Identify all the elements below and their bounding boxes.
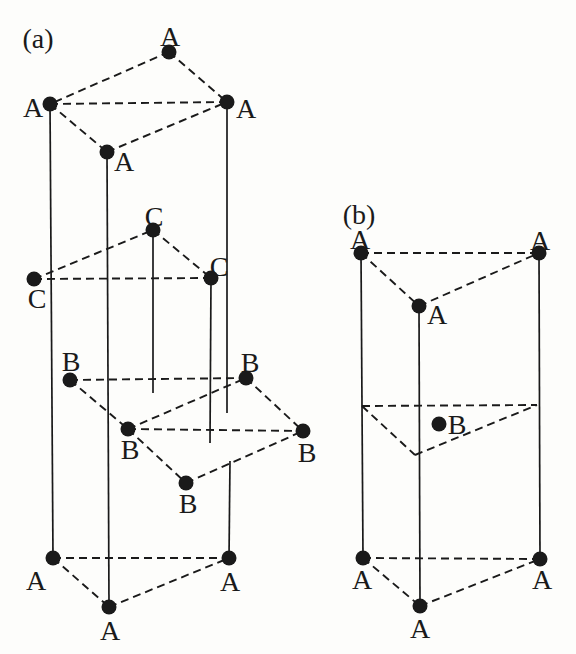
atom-column-line [107,152,109,607]
atom-label: C [210,251,229,282]
layer-bond-dashed-line [107,102,227,152]
atom-dot [412,299,427,314]
atom-dot [46,551,61,566]
atom-label: B [241,347,260,378]
atom-column-line [539,253,540,559]
layer-bond-dashed-line [50,52,169,104]
atom-label: B [179,488,198,519]
layer-bond-dashed-line [128,429,303,431]
layer-outline-dashed-line [362,406,415,455]
atom-label: B [121,434,140,465]
panel-b: AAABAAA(b) [343,199,553,644]
layer-bond-dashed-line [128,378,246,429]
panel-label-b: (b) [343,199,376,230]
atom-label: A [160,21,181,52]
layer-outline-dashed-line [415,405,537,455]
atom-dot [43,97,58,112]
atom-label: A [530,225,551,256]
atom-label: C [28,283,47,314]
atom-dot [432,417,447,432]
stacking-sequence-figure: AAAACCCBBBBBAAA(a)AAABAAA(b) [0,0,576,654]
atom-dot [413,599,428,614]
atom-column-line [210,278,211,443]
atom-label: A [352,564,373,595]
layer-bond-dashed-line [361,253,419,306]
layer-bond-dashed-line [34,278,211,279]
layer-bond-dashed-line [70,378,246,380]
atom-label: A [220,566,241,597]
atom-label: A [236,93,257,124]
atom-column-line [419,306,420,606]
atom-label: A [114,146,135,177]
atom-dot [100,145,115,160]
atom-label: B [62,346,81,377]
atom-column-line [229,461,230,558]
layer-bond-dashed-line [186,431,303,483]
layer-bond-dashed-line [420,559,540,606]
panel-label-a: (a) [22,23,53,54]
layer-bond-dashed-line [70,380,128,429]
layer-bond-dashed-line [109,558,229,607]
atom-dot [222,551,237,566]
atom-column-line [50,104,53,558]
atom-label: A [410,613,431,644]
layer-bond-dashed-line [169,52,227,102]
atom-label: A [427,299,448,330]
atom-dot [102,600,117,615]
atom-label: A [26,565,47,596]
crystal-stacking-diagram: AAAACCCBBBBBAAA(a)AAABAAA(b) [0,0,576,654]
layer-bond-dashed-line [50,102,227,104]
layer-bond-dashed-line [53,558,109,607]
layer-bond-dashed-line [363,558,540,559]
layer-bond-dashed-line [246,378,303,431]
layer-bond-dashed-line [50,104,107,152]
atom-label: A [100,615,121,646]
atom-label: C [145,201,164,232]
atom-label: B [448,409,467,440]
layer-bond-dashed-line [34,230,153,279]
layer-outline-dashed-line [362,405,537,406]
panel-a: AAAACCCBBBBBAAA(a) [22,21,316,646]
atom-dot [220,95,235,110]
atom-label: A [532,564,553,595]
layer-bond-dashed-line [153,230,211,278]
atom-label: A [23,92,44,123]
atom-label: B [298,437,317,468]
